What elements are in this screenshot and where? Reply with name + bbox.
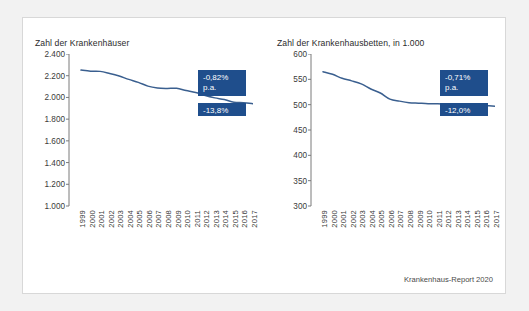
x-tick-label: 2002	[349, 210, 358, 228]
x-tick-label: 2007	[396, 210, 405, 228]
badge-rate-hospitals: -0,82% p.a.	[198, 70, 246, 96]
y-tick-label: 1.600	[45, 136, 66, 145]
x-tick-label: 2017	[492, 210, 501, 228]
x-tick-label: 2016	[240, 210, 249, 228]
x-tick-label: 2006	[387, 210, 396, 228]
x-tick-label: 2015	[473, 210, 482, 228]
y-tick-label: 450	[293, 126, 307, 135]
x-tick-label: 2016	[482, 210, 491, 228]
chart-beds: Zahl der Krankenhausbetten, in 1.000 300…	[265, 18, 507, 295]
x-tick-label: 2004	[126, 210, 135, 228]
x-tick-label: 2001	[97, 210, 106, 228]
y-tick-label: 2.000	[45, 93, 66, 102]
y-tick-label: 1.200	[45, 180, 66, 189]
y-tick-label: 600	[293, 50, 307, 59]
x-tick-label: 2012	[202, 210, 211, 228]
x-tick-label: 2000	[330, 210, 339, 228]
chart-title-beds: Zahl der Krankenhausbetten, in 1.000	[277, 38, 424, 48]
x-tick-label: 2010	[183, 210, 192, 228]
x-tick-label: 2013	[454, 210, 463, 228]
y-tick-label: 2.200	[45, 71, 66, 80]
x-tick-label: 1999	[320, 210, 329, 228]
x-tick-label: 2014	[463, 210, 472, 228]
badge-total-hospitals: -13,8%	[198, 103, 246, 116]
x-tick-label: 2001	[339, 210, 348, 228]
chart-hospitals: Zahl der Krankenhäuser 1.0001.2001.4001.…	[23, 18, 265, 295]
x-tick-label: 2009	[416, 210, 425, 228]
x-tick-label: 2015	[231, 210, 240, 228]
x-tick-label: 2008	[164, 210, 173, 228]
x-tick-label: 2003	[358, 210, 367, 228]
y-tick-label: 350	[293, 176, 307, 185]
x-tick-label: 2007	[154, 210, 163, 228]
y-tick-label: 300	[293, 202, 307, 211]
x-tick-label: 2000	[88, 210, 97, 228]
x-tick-label: 2010	[425, 210, 434, 228]
y-tick-label: 500	[293, 100, 307, 109]
y-tick-label: 550	[293, 75, 307, 84]
x-tick-label: 2005	[135, 210, 144, 228]
x-tick-label: 2013	[212, 210, 221, 228]
y-tick-label: 1.000	[45, 202, 66, 211]
x-tick-label: 2008	[406, 210, 415, 228]
x-tick-label: 2011	[435, 210, 444, 227]
x-tick-label: 2014	[221, 210, 230, 228]
y-tick-label: 1.800	[45, 115, 66, 124]
x-tick-label: 2011	[193, 210, 202, 227]
x-tick-label: 2006	[145, 210, 154, 228]
x-tick-label: 2005	[377, 210, 386, 228]
chart-panel: Zahl der Krankenhäuser 1.0001.2001.4001.…	[22, 17, 506, 294]
badge-total-beds: -12,0%	[440, 103, 488, 116]
source-caption: Krankenhaus-Report 2020	[404, 275, 493, 284]
x-tick-label: 2012	[444, 210, 453, 228]
x-axis-hospitals: 1999200020012002200320042005200620072008…	[69, 210, 253, 270]
y-tick-label: 1.400	[45, 158, 66, 167]
x-tick-label: 2002	[107, 210, 116, 228]
x-tick-label: 2003	[116, 210, 125, 228]
x-tick-label: 2004	[368, 210, 377, 228]
chart-title-hospitals: Zahl der Krankenhäuser	[35, 38, 129, 48]
x-tick-label: 1999	[78, 210, 87, 228]
y-tick-label: 2.400	[45, 50, 66, 59]
x-axis-beds: 1999200020012002200320042005200620072008…	[311, 210, 495, 270]
y-tick-label: 400	[293, 151, 307, 160]
badge-rate-beds: -0,71% p.a.	[440, 70, 488, 96]
x-tick-label: 2017	[250, 210, 259, 228]
x-tick-label: 2009	[174, 210, 183, 228]
